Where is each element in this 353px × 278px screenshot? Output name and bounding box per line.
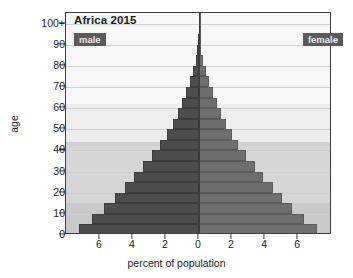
y-tick-label: 40 [53, 143, 65, 155]
bar-female [199, 108, 221, 119]
legend-male: male [74, 33, 106, 46]
bar-row [66, 193, 330, 204]
y-axis-label: age [8, 94, 20, 154]
chart-title: Africa 2015 [74, 14, 136, 26]
bar-male [115, 193, 199, 204]
bar-row [66, 87, 330, 98]
bar-female [199, 214, 304, 225]
bar-female [199, 224, 317, 234]
bar-row [66, 203, 330, 214]
bar-female [199, 129, 232, 140]
bar-row [66, 172, 330, 183]
bar-row [66, 76, 330, 87]
bar-female [199, 161, 255, 172]
bar-male [167, 129, 199, 140]
population-pyramid-figure: Africa 2015 male female 0102030405060708… [0, 0, 353, 278]
bar-male [134, 172, 199, 183]
bar-male [143, 161, 199, 172]
y-tick-label: 0 [59, 228, 65, 240]
bar-female [199, 203, 292, 214]
bar-row [66, 182, 330, 193]
y-tick-label: 100+ [41, 17, 65, 29]
x-tick-label: 0 [195, 238, 201, 250]
bar-female [199, 87, 213, 98]
bar-row [66, 119, 330, 130]
x-tick-label: 4 [129, 238, 135, 250]
bar-male [125, 182, 199, 193]
x-axis-label: percent of population [0, 257, 353, 269]
bar-female [199, 98, 217, 109]
legend-female: female [303, 33, 343, 46]
bar-male [190, 76, 199, 87]
bar-male [178, 108, 199, 119]
bar-male [152, 150, 199, 161]
bar-female [199, 182, 273, 193]
x-tick-label: 6 [294, 238, 300, 250]
y-tick-label: 80 [53, 59, 65, 71]
bar-row [66, 66, 330, 77]
y-tick-label: 90 [53, 38, 65, 50]
bar-row [66, 98, 330, 109]
bar-female [199, 172, 263, 183]
y-tick-label: 30 [53, 165, 65, 177]
x-tick-label: 6 [96, 238, 102, 250]
bar-row [66, 140, 330, 151]
bar-female [199, 76, 209, 87]
bar-female [199, 193, 282, 204]
x-tick-label: 4 [261, 238, 267, 250]
bar-row [66, 108, 330, 119]
bar-female [199, 119, 226, 130]
bar-row [66, 129, 330, 140]
bar-male [173, 119, 199, 130]
bar-female [199, 150, 246, 161]
bar-male [160, 140, 199, 151]
bar-male [182, 98, 199, 109]
bar-male [92, 214, 199, 225]
x-tick-label: 2 [162, 238, 168, 250]
bar-row [66, 55, 330, 66]
y-tick-label: 20 [53, 186, 65, 198]
bar-male [104, 203, 199, 214]
bar-row [66, 150, 330, 161]
y-tick-label: 50 [53, 122, 65, 134]
bar-row [66, 214, 330, 225]
x-tick-label: 2 [228, 238, 234, 250]
y-tick-label: 10 [53, 207, 65, 219]
bar-male [79, 224, 199, 234]
y-tick-label: 70 [53, 80, 65, 92]
y-tick-label: 60 [53, 101, 65, 113]
bar-female [199, 140, 238, 151]
bar-row [66, 161, 330, 172]
bar-row [66, 224, 330, 234]
zero-axis-line [199, 13, 200, 233]
bar-male [186, 87, 199, 98]
